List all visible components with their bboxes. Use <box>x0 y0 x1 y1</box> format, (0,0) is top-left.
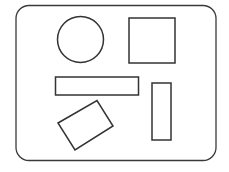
square-shape <box>129 18 175 63</box>
shapes-diagram <box>0 0 229 172</box>
rotated-rectangle-shape <box>58 101 113 151</box>
vertical-rectangle-shape <box>152 83 171 140</box>
circle-shape <box>58 17 104 63</box>
horizontal-rectangle-shape <box>56 77 139 95</box>
frame-rounded-rectangle <box>16 6 216 161</box>
